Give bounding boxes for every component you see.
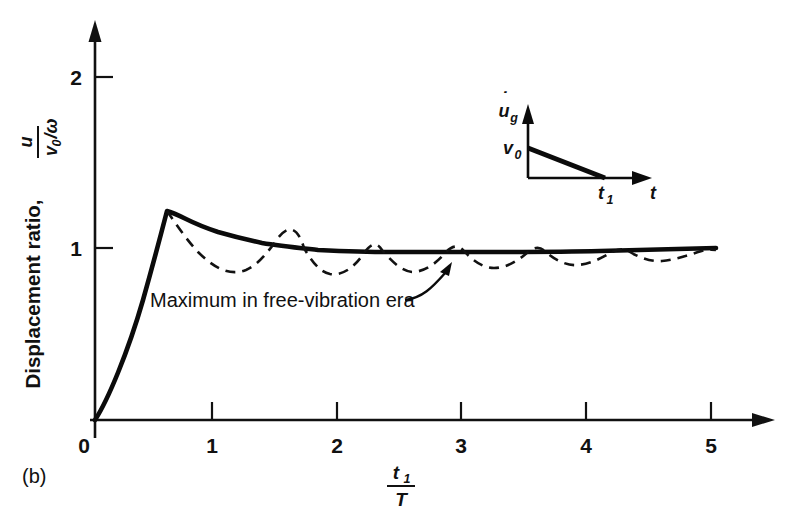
inset-y-axis-arrowhead: [522, 104, 534, 124]
inset-y-label-u: u: [499, 101, 510, 121]
inset-t1-label: t 1: [598, 183, 614, 207]
inset-v0-label: v 0: [503, 138, 522, 162]
y-axis-title-fraction: u v 0 / ω: [16, 118, 64, 158]
y-axis-title-group: Displacement ratio, u v 0 / ω: [16, 118, 64, 388]
inset-diagram-group: u ̇ g v 0 t 1 t: [499, 91, 658, 207]
y-fraction-numerator: u: [16, 137, 36, 148]
inset-v0-sub: 0: [515, 148, 522, 162]
x-tick-label-3: 3: [455, 434, 467, 457]
x-axis-title-numerator-sub: 1: [404, 472, 411, 486]
oscillation-curve: [167, 211, 716, 274]
y-tick-label-2: 2: [70, 66, 82, 89]
x-tick-label-1: 1: [206, 434, 218, 457]
x-tick-label-0: 0: [78, 434, 90, 457]
annotation-label: Maximum in free-vibration era: [150, 289, 415, 311]
y-axis-group: 1 2: [70, 20, 113, 438]
y-axis-arrowhead: [89, 20, 102, 42]
inset-v0-main: v: [503, 138, 514, 158]
figure-container: 1 2 Displacement ratio, u v 0 / ω: [0, 0, 800, 517]
y-fraction-denominator: v 0 / ω: [41, 118, 64, 156]
inset-pulse-line: [528, 148, 605, 178]
inset-y-label-sub-g: g: [509, 111, 518, 125]
x-axis-title-denominator: T: [395, 489, 408, 510]
annotation-arrowhead: [440, 262, 452, 276]
inset-y-label-dot: ̇: [504, 91, 507, 93]
annotation-group: Maximum in free-vibration era: [150, 262, 452, 311]
y-fraction-den-omega: ω: [41, 118, 61, 133]
inset-t1-main: t: [598, 183, 605, 203]
inset-x-axis-arrowhead: [632, 171, 652, 185]
inset-t1-sub: 1: [607, 193, 614, 207]
inset-t-axis-label: t: [650, 183, 657, 203]
x-axis-group: 0 1 2 3 4 5: [78, 402, 775, 457]
panel-label: (b): [22, 465, 46, 487]
y-tick-label-1: 1: [70, 237, 82, 260]
inset-y-axis-label: u ̇ g: [499, 91, 519, 125]
x-axis-title-numerator: t: [393, 462, 400, 483]
x-tick-label-2: 2: [331, 434, 343, 457]
x-tick-label-5: 5: [705, 434, 717, 457]
x-axis-arrowhead: [752, 413, 775, 427]
chart-svg: 1 2 Displacement ratio, u v 0 / ω: [0, 0, 800, 517]
x-tick-label-4: 4: [580, 434, 592, 457]
y-fraction-den-sub: 0: [50, 139, 64, 146]
x-axis-title-group: t 1 T: [387, 462, 415, 510]
y-axis-title-text: Displacement ratio,: [21, 199, 44, 388]
